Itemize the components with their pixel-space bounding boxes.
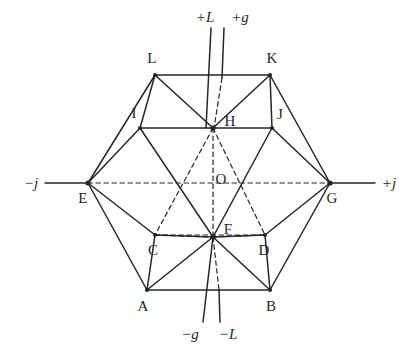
axis-pos-L-label: +L [196,10,214,25]
line-pos-g [222,28,224,78]
axis-pos-g-label: +g [231,10,249,25]
axis-neg-L-label: −L [219,327,237,342]
edge-g-d [265,183,330,235]
vertex-dot-k [268,73,272,77]
vertex-label-g: G [326,191,337,206]
vertex-dot-c [153,233,157,237]
vertex-dot-i [138,126,142,130]
vertex-label-c: C [148,243,158,258]
vertex-dot-b [268,288,272,292]
edge-l-e [88,75,155,183]
vertex-dot-g [327,180,332,185]
vertex-dot-e [85,180,90,185]
edge-g-b [270,183,330,290]
edge-k-j [270,75,272,128]
vertex-label-j: J [277,107,283,122]
edge-i-e [88,128,140,183]
vertex-label-e: E [78,191,87,206]
axis-neg-j-label: −j [24,176,38,191]
line-pos-L [206,28,211,128]
hidden-edge-h-c [155,128,213,235]
line-neg-L [219,290,220,322]
edge-e-a [88,183,147,290]
edge-e-c [88,183,155,235]
vertex-label-o: O [215,172,226,187]
vertex-label-k: K [266,51,277,66]
line-neg-L-hidden [213,237,219,290]
line-neg-g [203,237,213,322]
vertex-dot-a [145,288,149,292]
vertex-dot-h [210,125,215,130]
vertex-label-b: B [266,299,276,314]
vertex-dot-f [210,234,215,239]
vertex-dot-d [263,233,267,237]
vertex-dot-j [270,126,274,130]
edge-k-g [270,75,330,183]
diagram-canvas [0,0,417,350]
vertex-label-d: D [258,243,269,258]
edge-l-h [155,75,213,128]
vertex-label-f: F [224,222,233,237]
vertex-label-h: H [224,114,235,129]
vertex-label-a: A [137,299,148,314]
axis-neg-g-label: −g [181,327,199,342]
axis-pos-j-label: +j [382,176,396,191]
vertex-label-i: I [131,106,136,121]
vertex-dot-l [153,73,157,77]
polyhedron-diagram: ABCDEFGHIJKLO −j+j+L+g−g−L [0,0,417,350]
edge-l-i [140,75,155,128]
edge-j-g [272,128,330,183]
vertex-label-l: L [147,51,156,66]
